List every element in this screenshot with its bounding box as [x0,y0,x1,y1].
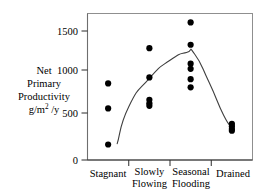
x-category-label-stagnant: Stagnant [90,168,127,179]
x-category-label-slowly: Slowly [135,166,166,177]
data-point-marker [146,103,152,109]
y-tick-label-0: 0 [73,155,78,166]
data-point-marker [105,80,111,86]
y-units-suffix: /y [49,104,61,115]
y-axis-title-line-3: Productivity [18,91,71,102]
x-category-label-drained: Drained [216,168,251,179]
chart-screenshot: 1500 1000 500 0 Net Primary Productivity… [0,0,265,192]
x-axis-category-labels: Stagnant Slowly Flowing Seasonal Floodin… [90,166,251,189]
x-category-label-flowing: Flowing [132,178,168,189]
y-units-prefix: g/m [29,104,45,115]
npp-scatter-chart: 1500 1000 500 0 Net Primary Productivity… [0,0,265,192]
y-tick-label-500: 500 [62,108,78,119]
y-axis-ticks [82,31,88,160]
y-axis-title-line-2: Primary [27,78,62,89]
data-point-marker [188,19,194,25]
plot-frame [88,14,253,161]
data-point-marker [188,84,194,90]
y-axis-title-line-1: Net [36,65,51,76]
data-point-marker [188,42,194,48]
data-point-marker [188,66,194,72]
y-axis-title-units: g/m2 /y [29,103,60,114]
y-tick-label-1000: 1000 [57,65,78,76]
data-point-marker [229,128,235,134]
x-category-label-flooding: Flooding [172,178,211,189]
data-point-marker [146,45,152,51]
data-point-marker [105,105,111,111]
data-point-marker [146,74,152,80]
y-tick-label-1500: 1500 [57,26,78,37]
data-point-marker [188,76,194,82]
data-point-marker [105,141,111,147]
x-category-label-seasonal: Seasonal [172,166,209,177]
